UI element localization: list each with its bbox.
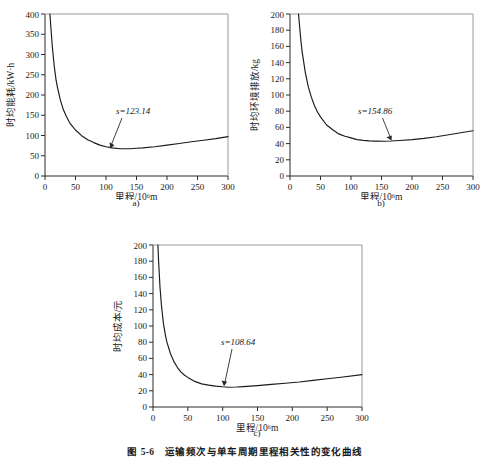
- axes-b: [290, 14, 473, 176]
- chart-panel-b: 0 20 40 60 80 100 120 140 160 180 200: [245, 0, 490, 200]
- y-tick-b-160: 160: [271, 41, 285, 51]
- y-tick-a-350: 350: [26, 29, 40, 39]
- x-ticks-a: [45, 176, 228, 180]
- x-ticklabels-c: 0 50 100 150 200 250 300: [151, 413, 370, 423]
- chart-c-svg: 0 20 40 60 80 100 120 140 160 180 200: [108, 231, 373, 436]
- y-tick-c-0: 0: [143, 402, 148, 412]
- y-tick-a-100: 100: [26, 131, 40, 141]
- x-ticks-b: [290, 176, 473, 180]
- chart-a-svg: 0 50 100 150 200 250 300 350 400: [0, 0, 245, 200]
- y-tick-c-160: 160: [134, 272, 148, 282]
- x-tick-b-250: 250: [436, 182, 450, 192]
- annotation-b-label: s=154.86: [358, 106, 393, 116]
- y-tick-a-50: 50: [30, 151, 40, 161]
- y-ticks-c: [149, 245, 153, 407]
- y-ticklabels-c: 0 20 40 60 80 100 120 140 160 180 200: [134, 241, 148, 413]
- y-tick-b-120: 120: [271, 74, 285, 84]
- x-tick-b-150: 150: [375, 182, 389, 192]
- annotation-c-arrowhead: [222, 381, 228, 387]
- chart-b-svg: 0 20 40 60 80 100 120 140 160 180 200: [245, 0, 490, 200]
- subcaption-c: c): [227, 428, 287, 438]
- subcaption-b: b): [351, 198, 411, 208]
- y-axis-label-a: 时均能耗/kW·h: [5, 63, 16, 128]
- axis-frame-c: [153, 245, 362, 407]
- axes-c: [153, 245, 362, 407]
- axes-a: [45, 14, 228, 176]
- x-tick-b-300: 300: [466, 182, 480, 192]
- curve-c: [158, 245, 362, 387]
- curve-b: [299, 14, 474, 141]
- y-axis-label-a-text: 时均能耗/kW·h: [5, 63, 16, 128]
- annotation-c: s=108.64: [221, 337, 256, 386]
- annotation-c-label: s=108.64: [221, 337, 256, 347]
- x-tick-a-200: 200: [160, 182, 174, 192]
- x-tick-b-0: 0: [288, 182, 293, 192]
- y-tick-c-100: 100: [134, 321, 148, 331]
- subcaption-a: a): [106, 198, 166, 208]
- x-tick-c-150: 150: [251, 413, 265, 423]
- axis-lines-b: [290, 14, 473, 176]
- curve-a: [50, 14, 228, 149]
- y-tick-c-60: 60: [138, 353, 148, 363]
- axis-frame-a: [45, 14, 228, 176]
- y-tick-b-60: 60: [275, 122, 285, 132]
- x-tick-c-300: 300: [355, 413, 369, 423]
- y-tick-c-140: 140: [134, 289, 148, 299]
- x-tick-b-50: 50: [316, 182, 326, 192]
- y-axis-label-b-text: 时均环境排放/kg: [249, 59, 260, 131]
- axis-frame-b: [290, 14, 473, 176]
- y-axis-label-c-text: 时均成本/元: [112, 300, 123, 353]
- x-tick-a-0: 0: [43, 182, 48, 192]
- y-ticks-a: [41, 14, 45, 176]
- chart-panel-c: 0 20 40 60 80 100 120 140 160 180 200: [108, 231, 373, 436]
- x-tick-a-300: 300: [221, 182, 235, 192]
- y-ticks-b: [286, 14, 290, 176]
- x-tick-c-0: 0: [151, 413, 156, 423]
- y-tick-c-40: 40: [138, 370, 148, 380]
- x-tick-a-150: 150: [130, 182, 144, 192]
- y-tick-b-0: 0: [280, 171, 285, 181]
- x-tick-c-100: 100: [216, 413, 230, 423]
- annotation-a: s=123.14: [110, 106, 151, 148]
- y-tick-a-150: 150: [26, 110, 40, 120]
- y-tick-a-0: 0: [35, 171, 40, 181]
- annotation-a-text: s=123.14: [116, 106, 151, 116]
- x-tick-a-250: 250: [191, 182, 205, 192]
- annotation-a-label: s=123.14: [116, 106, 151, 116]
- x-tick-a-100: 100: [99, 182, 113, 192]
- annotation-b-text: s=154.86: [358, 106, 393, 116]
- annotation-c-text: s=108.64: [221, 337, 256, 347]
- y-tick-c-180: 180: [134, 256, 148, 266]
- y-tick-c-120: 120: [134, 305, 148, 315]
- y-ticklabels-b: 0 20 40 60 80 100 120 140 160 180 200: [271, 10, 285, 182]
- annotation-b-arrowhead: [386, 136, 392, 141]
- y-ticklabels-a: 0 50 100 150 200 250 300 350 400: [26, 10, 40, 182]
- annotation-a-leader: [112, 118, 123, 145]
- y-axis-label-c: 时均成本/元: [112, 300, 123, 353]
- x-tick-b-100: 100: [344, 182, 358, 192]
- y-tick-b-200: 200: [271, 10, 285, 20]
- annotation-b-leader: [383, 118, 391, 137]
- annotation-c-leader: [225, 349, 232, 382]
- y-tick-b-140: 140: [271, 58, 285, 68]
- axis-lines-c: [153, 245, 362, 407]
- y-tick-a-300: 300: [26, 50, 40, 60]
- annotation-b: s=154.86: [358, 106, 393, 141]
- x-tick-c-250: 250: [320, 413, 334, 423]
- y-tick-b-100: 100: [271, 90, 285, 100]
- y-tick-b-40: 40: [275, 139, 285, 149]
- figure-caption: 图 5-6 运输频次与单车周期里程相关性的变化曲线: [0, 444, 490, 458]
- chart-panel-a: 0 50 100 150 200 250 300 350 400: [0, 0, 245, 200]
- y-tick-a-250: 250: [26, 70, 40, 80]
- x-tick-c-200: 200: [286, 413, 300, 423]
- y-tick-b-20: 20: [275, 155, 285, 165]
- y-axis-label-b: 时均环境排放/kg: [249, 59, 260, 131]
- x-ticklabels-b: 0 50 100 150 200 250 300: [288, 182, 481, 192]
- y-tick-a-400: 400: [26, 10, 40, 20]
- axis-lines-a: [45, 14, 228, 176]
- x-ticklabels-a: 0 50 100 150 200 250 300: [43, 182, 236, 192]
- y-tick-c-200: 200: [134, 241, 148, 251]
- y-tick-c-80: 80: [138, 337, 148, 347]
- y-tick-b-180: 180: [271, 25, 285, 35]
